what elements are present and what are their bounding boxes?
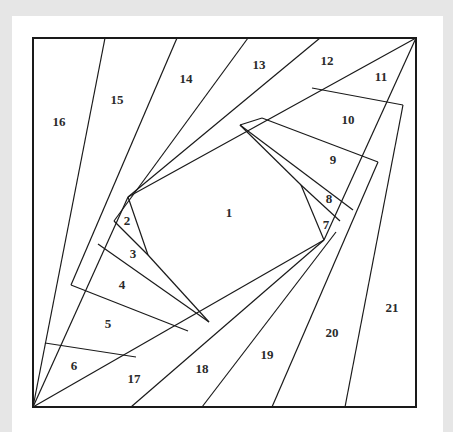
seam-line bbox=[131, 240, 324, 407]
seam-line bbox=[301, 185, 340, 221]
piece-label-4: 4 bbox=[119, 277, 126, 292]
seam-line bbox=[33, 240, 324, 407]
piece-label-2: 2 bbox=[124, 213, 131, 228]
piece-label-3: 3 bbox=[130, 246, 137, 261]
piece-label-6: 6 bbox=[71, 358, 78, 373]
piece-label-19: 19 bbox=[261, 347, 275, 362]
piece-label-13: 13 bbox=[253, 57, 267, 72]
seam-line bbox=[240, 118, 262, 125]
piece-label-8: 8 bbox=[326, 191, 333, 206]
piece-label-1: 1 bbox=[226, 205, 233, 220]
seam-line bbox=[71, 38, 177, 285]
paper-piecing-diagram: 123456789101112131415161718192021 bbox=[0, 0, 453, 432]
piece-label-11: 11 bbox=[375, 69, 387, 84]
seam-lines bbox=[33, 38, 416, 407]
seam-line bbox=[345, 105, 403, 407]
piece-label-17: 17 bbox=[128, 371, 142, 386]
piece-label-18: 18 bbox=[196, 361, 210, 376]
seam-line bbox=[240, 125, 301, 185]
seam-line bbox=[301, 185, 324, 240]
piece-label-20: 20 bbox=[326, 325, 339, 340]
piece-label-10: 10 bbox=[342, 112, 355, 127]
seam-line bbox=[324, 38, 416, 240]
seam-line bbox=[33, 38, 105, 407]
piece-label-16: 16 bbox=[53, 114, 67, 129]
seam-line bbox=[148, 255, 209, 322]
seam-line bbox=[71, 285, 188, 331]
piece-label-9: 9 bbox=[330, 152, 337, 167]
seam-line bbox=[128, 38, 320, 197]
piece-label-12: 12 bbox=[321, 53, 334, 68]
block-frame bbox=[33, 38, 416, 407]
piece-label-21: 21 bbox=[386, 300, 399, 315]
seam-line bbox=[98, 244, 209, 322]
piece-label-7: 7 bbox=[323, 217, 330, 232]
piece-label-15: 15 bbox=[111, 92, 125, 107]
seam-line bbox=[262, 118, 378, 162]
piece-labels: 123456789101112131415161718192021 bbox=[53, 53, 399, 386]
piece-label-14: 14 bbox=[180, 71, 194, 86]
seam-line bbox=[240, 125, 353, 210]
seam-line bbox=[202, 232, 336, 407]
piece-label-5: 5 bbox=[105, 316, 112, 331]
